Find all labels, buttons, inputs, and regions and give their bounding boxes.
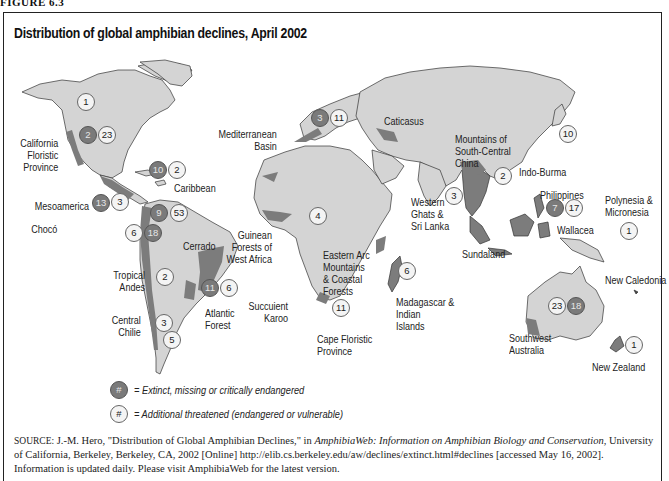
badge-extinct: 18: [144, 224, 162, 242]
label-line: Tropical: [113, 269, 145, 281]
label-california-floristic-province: California Floristic Province: [20, 137, 58, 173]
label-line: Karoo: [248, 312, 288, 324]
label-line: Micronesia: [605, 206, 653, 218]
badge-extinct: 3: [311, 109, 329, 127]
label-line: Province: [20, 161, 58, 173]
badge-extinct: 18: [567, 297, 585, 315]
label-line: Sri Lanka: [411, 220, 449, 232]
badge-threatened: 23: [548, 297, 566, 315]
label-line: Atlantic: [205, 307, 235, 319]
badge-threatened: 6: [125, 224, 143, 242]
label-new-caledonia: New Caledonia: [605, 274, 666, 286]
badge-extinct: 9: [150, 204, 168, 222]
label-line: Forests: [323, 285, 370, 297]
label-atlantic-forest: Atlantic Forest: [205, 307, 235, 331]
label-western-ghats: Western Ghats & Sri Lanka: [411, 196, 449, 232]
badge-threatened: 10: [559, 125, 577, 143]
badge-threatened: 1: [625, 336, 643, 354]
badge-threatened: 3: [111, 193, 129, 211]
label-line: Basin: [219, 140, 277, 152]
label-eastern-arc: Eastern Arc Mountains & Coastal Forests: [323, 249, 370, 297]
legend-threatened-text: = Additional threatened (endangered or v…: [134, 408, 343, 420]
label-line: Chilie: [112, 326, 141, 338]
badge-threatened: 2: [168, 161, 186, 179]
label-line: Province: [317, 345, 372, 357]
label-line: West Africa: [227, 253, 272, 265]
label-line: Madagascar &: [396, 296, 454, 308]
label-line: Andes: [113, 281, 145, 293]
badge-threatened: 53: [170, 204, 188, 222]
label-line: Indian: [396, 308, 454, 320]
badge-threatened: 23: [98, 126, 116, 144]
label-mesoamerica: Mesoamerica: [35, 200, 89, 212]
label-line: Central: [112, 314, 141, 326]
label-line: Guinean: [227, 229, 272, 241]
label-choco: Chocó: [31, 223, 57, 235]
label-line: Forests of: [227, 241, 272, 253]
badge-threatened: 6: [220, 279, 238, 297]
badge-extinct: 13: [92, 194, 110, 212]
label-line: Western: [411, 196, 449, 208]
label-line: Eastern Arc: [323, 249, 370, 261]
label-line: Australia: [509, 344, 551, 356]
label-guinean-forests: Guinean Forests of West Africa: [227, 229, 272, 265]
legend-extinct-swatch: #: [110, 381, 128, 399]
label-line: & Coastal: [323, 273, 370, 285]
label-south-central-china: Mountains of South-Central China: [455, 133, 511, 169]
label-caticasus: Caticasus: [384, 115, 424, 127]
label-line: Mountains of: [455, 133, 511, 145]
badge-threatened: 5: [163, 331, 181, 349]
badge-threatened: 11: [332, 299, 350, 317]
legend-threatened-swatch: #: [110, 405, 128, 423]
label-sundaland: Sundaland: [462, 248, 505, 260]
label-line: Southwest: [509, 332, 551, 344]
badge-threatened: 6: [398, 262, 416, 280]
label-indo-burma: Indo-Burma: [519, 166, 566, 178]
label-wallacea: Wallacea: [557, 224, 594, 236]
badge-extinct: 7: [546, 199, 564, 217]
source-prefix: SOURCE:: [14, 436, 54, 446]
label-line: Ghats &: [411, 208, 449, 220]
legend-threatened: # = Additional threatened (endangered or…: [110, 405, 372, 423]
badge-extinct: 10: [149, 161, 167, 179]
badge-extinct: 11: [201, 279, 219, 297]
label-line: Polynesia &: [605, 194, 653, 206]
label-cape-floristic: Cape Floristic Province: [317, 333, 372, 357]
badge-threatened: 11: [330, 109, 348, 127]
label-caribbean: Caribbean: [174, 182, 216, 194]
label-line: Floristic: [20, 149, 58, 161]
label-cerrado: Cerrado: [183, 240, 216, 252]
label-line: Cape Floristic: [317, 333, 372, 345]
label-line: Forest: [205, 319, 235, 331]
label-polynesia-micronesia: Polynesia & Micronesia: [605, 194, 653, 218]
legend-extinct: # = Extinct, missing or critically endan…: [110, 381, 327, 399]
label-southwest-australia: Southwest Australia: [509, 332, 551, 356]
badge-threatened: 2: [156, 268, 174, 286]
label-new-zealand: New Zealand: [592, 361, 645, 373]
badge-threatened: 17: [565, 199, 583, 217]
label-line: Mountains: [323, 261, 370, 273]
label-line: Mediterranean: [219, 128, 277, 140]
badge-threatened: 1: [77, 93, 95, 111]
label-mediterranean-basin: Mediterranean Basin: [219, 128, 277, 152]
badge-threatened: 4: [309, 207, 327, 225]
source-text-1: J.-M. Hero, "Distribution of Global Amph…: [54, 435, 314, 446]
source-italic: AmphibiaWeb: Information on Amphibian Bi…: [314, 435, 606, 446]
label-line: Islands: [396, 320, 454, 332]
label-line: Succuient: [248, 300, 288, 312]
label-line: California: [20, 137, 58, 149]
badge-threatened: 3: [445, 187, 463, 205]
badge-threatened: 3: [155, 314, 173, 332]
badge-threatened: 1: [620, 222, 638, 240]
badge-threatened: 2: [494, 167, 512, 185]
label-central-chilie: Central Chilie: [112, 314, 141, 338]
legend-extinct-text: = Extinct, missing or critically endange…: [134, 384, 304, 396]
label-tropical-andes: Tropical Andes: [113, 269, 145, 293]
badge-extinct: 2: [79, 126, 97, 144]
label-line: South-Central: [455, 145, 511, 157]
label-succulent-karoo: Succuient Karoo: [248, 300, 288, 324]
label-madagascar: Madagascar & Indian Islands: [396, 296, 454, 332]
source-citation: SOURCE: J.-M. Hero, "Distribution of Glo…: [14, 434, 654, 476]
